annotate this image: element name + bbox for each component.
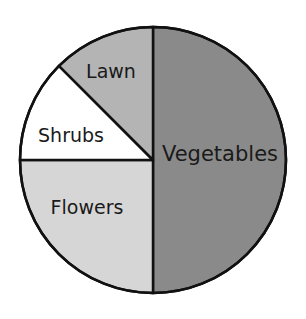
label-flowers: Flowers xyxy=(51,196,124,218)
label-vegetables: Vegetables xyxy=(162,142,278,166)
label-shrubs: Shrubs xyxy=(38,124,104,146)
slice-flowers xyxy=(20,160,153,293)
label-lawn: Lawn xyxy=(86,60,136,82)
pie-chart: Vegetables Flowers Shrubs Lawn xyxy=(0,0,306,319)
